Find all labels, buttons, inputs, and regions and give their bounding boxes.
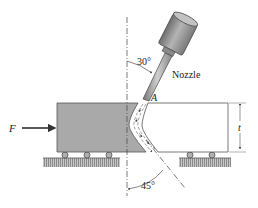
point-a-label: A: [150, 92, 158, 103]
force-label: F: [8, 122, 16, 134]
angle-label-30: 30°: [137, 56, 151, 67]
workpiece-right: [142, 103, 228, 152]
thickness-label: t: [238, 122, 241, 133]
ground-right: [179, 158, 231, 167]
nozzle-body: [156, 9, 200, 60]
water-jet-cutting-diagram: 30° 45° Nozzle A F t: [0, 0, 258, 208]
nozzle-label: Nozzle: [172, 69, 201, 80]
workpiece-left: [57, 103, 146, 152]
ground-left: [43, 158, 120, 167]
angle-label-45: 45°: [141, 180, 155, 191]
rollers: [62, 152, 215, 158]
